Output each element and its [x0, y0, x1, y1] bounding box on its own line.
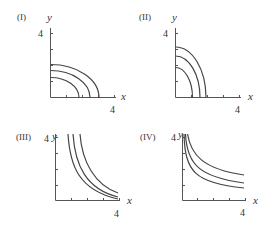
- level-curve-3: [188, 134, 245, 175]
- x-axis-label: x: [126, 194, 132, 206]
- y-axis-label: y: [46, 11, 52, 23]
- panel-label: (II): [139, 12, 151, 22]
- x-axis-label: x: [252, 194, 258, 206]
- x-tick-label: 4: [240, 207, 245, 218]
- x-tick-label: 4: [114, 208, 119, 219]
- level-curve-1: [176, 68, 193, 98]
- y-tick-label: 4: [38, 28, 43, 39]
- panel-ii: (II) y 4 x 4: [139, 11, 253, 115]
- level-curve-1: [51, 78, 80, 98]
- y-axis-label: y: [51, 130, 57, 142]
- ticks: [175, 34, 240, 98]
- panel-i: (I) y 4 x 4: [17, 11, 126, 115]
- level-curve-2: [186, 134, 245, 183]
- panel-label: (IV): [140, 132, 156, 142]
- ticks: [55, 138, 120, 201]
- panel-iii: (III) y 4 x 4: [16, 130, 132, 219]
- x-tick-label: 4: [110, 104, 115, 115]
- level-curve-3: [176, 47, 207, 98]
- x-tick-label: 4: [235, 104, 240, 115]
- x-axis-label: x: [247, 90, 253, 102]
- figure-canvas: (I) y 4 x 4 (II) y 4 x 4: [0, 0, 273, 229]
- level-curve-3: [80, 134, 118, 193]
- panel-label: (I): [17, 12, 26, 22]
- y-tick-label: 4: [44, 133, 49, 144]
- panel-label: (III): [16, 132, 31, 142]
- y-tick-label: 4: [171, 132, 176, 143]
- panel-iv: (IV) y 4 x 4: [140, 128, 258, 218]
- level-curve-2: [73, 134, 118, 197]
- y-tick-label: 4: [163, 28, 168, 39]
- x-axis-label: x: [120, 90, 126, 102]
- level-curve-3: [51, 65, 100, 98]
- level-curve-2: [51, 71, 91, 98]
- y-axis-label: y: [171, 11, 177, 23]
